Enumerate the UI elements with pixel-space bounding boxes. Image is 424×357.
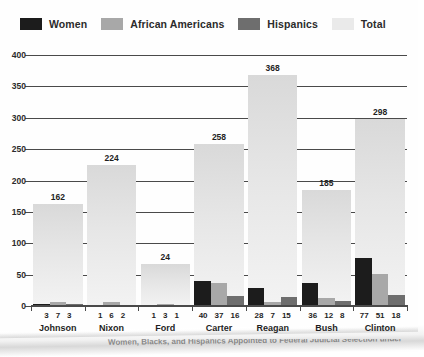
legend-item-hispanics: Hispanics <box>238 18 318 30</box>
legend-item-african-americans: African Americans <box>101 18 224 30</box>
bar-group: 258 <box>192 55 246 306</box>
sub-bars <box>248 55 297 306</box>
value-label-women: 77 <box>356 311 372 320</box>
bar-group: 368 <box>246 55 300 306</box>
x-axis-value-row: 131 <box>138 311 192 320</box>
value-label-hispanics: 16 <box>227 311 243 320</box>
value-label-women: 28 <box>251 311 267 320</box>
bar-women <box>248 288 264 306</box>
legend-swatch-total <box>332 18 354 30</box>
x-axis-value-row: 36128 <box>300 311 354 320</box>
value-label-african-americans: 7 <box>267 311 278 320</box>
bar-african-americans <box>211 283 227 306</box>
sub-bars <box>302 55 351 306</box>
legend-label-african-americans: African Americans <box>130 18 224 30</box>
value-label-african-americans: 7 <box>52 311 63 320</box>
sub-bars <box>194 55 243 306</box>
x-axis-category-label: Reagan <box>246 323 300 333</box>
value-label-women: 1 <box>94 311 105 320</box>
bar-group: 185 <box>300 55 354 306</box>
legend-label-total: Total <box>361 18 386 30</box>
value-label-african-americans: 37 <box>211 311 227 320</box>
legend-label-women: Women <box>49 18 87 30</box>
bar-group: 224 <box>85 55 139 306</box>
x-axis-value-row: 28715 <box>246 311 300 320</box>
sub-bars <box>141 55 190 306</box>
legend-swatch-african-americans <box>101 18 123 30</box>
x-axis-value-row: 775118 <box>353 311 407 320</box>
legend-swatch-women <box>20 18 42 30</box>
value-label-women: 1 <box>148 311 159 320</box>
x-axis-group-labels: 775118Clinton <box>353 311 407 341</box>
bar-women <box>355 258 371 306</box>
bar-african-americans <box>372 274 388 306</box>
y-axis-tick-label: 400 <box>12 50 26 60</box>
bar-women <box>194 281 210 306</box>
y-axis-tick-label: 150 <box>12 207 26 217</box>
x-axis-value-row: 373 <box>31 311 85 320</box>
value-label-african-americans: 3 <box>160 311 171 320</box>
y-axis-tick-label: 300 <box>12 113 26 123</box>
x-axis-line <box>31 305 407 306</box>
y-axis-tick-label: 250 <box>12 144 26 154</box>
bar-group: 162 <box>31 55 85 306</box>
x-axis-group-labels: 131Ford <box>138 311 192 341</box>
x-axis-category-label: Carter <box>192 323 246 333</box>
x-axis-category-label: Bush <box>300 323 354 333</box>
x-axis-group-labels: 403716Carter <box>192 311 246 341</box>
value-label-african-americans: 12 <box>321 311 337 320</box>
bar-group: 24 <box>138 55 192 306</box>
value-label-hispanics: 3 <box>64 311 75 320</box>
x-axis-group-labels: 162Nixon <box>85 311 139 341</box>
sub-bars <box>33 55 82 306</box>
legend-item-total: Total <box>332 18 386 30</box>
chart-legend: Women African Americans Hispanics Total <box>20 13 400 35</box>
plot-area: 0501001502002503003504001622242425836818… <box>31 55 407 306</box>
value-label-women: 40 <box>195 311 211 320</box>
value-label-hispanics: 1 <box>171 311 182 320</box>
x-axis-category-label: Nixon <box>85 323 139 333</box>
x-axis-value-row: 403716 <box>192 311 246 320</box>
bar-group: 298 <box>353 55 407 306</box>
x-axis-group-labels: 28715Reagan <box>246 311 300 341</box>
x-axis-category-label: Johnson <box>31 323 85 333</box>
y-axis-tick-label: 200 <box>12 176 26 186</box>
x-axis-category-label: Ford <box>138 323 192 333</box>
value-label-hispanics: 15 <box>278 311 294 320</box>
y-axis-tick-label: 50 <box>17 270 26 280</box>
sub-bars <box>87 55 136 306</box>
legend-label-hispanics: Hispanics <box>267 18 318 30</box>
x-axis-start-tick <box>31 305 32 311</box>
x-axis-category-label: Clinton <box>353 323 407 333</box>
y-axis-tick-label: 100 <box>12 238 26 248</box>
legend-swatch-hispanics <box>238 18 260 30</box>
x-axis-group-labels: 36128Bush <box>300 311 354 341</box>
y-axis-tick-label: 350 <box>12 81 26 91</box>
x-axis-value-row: 162 <box>85 311 139 320</box>
value-label-hispanics: 2 <box>117 311 128 320</box>
value-label-african-americans: 6 <box>106 311 117 320</box>
x-axis-end-tick <box>407 305 408 311</box>
value-label-women: 3 <box>41 311 52 320</box>
value-label-hispanics: 18 <box>388 311 404 320</box>
value-label-hispanics: 8 <box>337 311 348 320</box>
x-axis-group-labels: 373Johnson <box>31 311 85 341</box>
value-label-women: 36 <box>305 311 321 320</box>
legend-item-women: Women <box>20 18 87 30</box>
value-label-african-americans: 51 <box>372 311 388 320</box>
sub-bars <box>355 55 404 306</box>
bar-women <box>302 283 318 306</box>
y-axis-tick-label: 0 <box>21 301 26 311</box>
